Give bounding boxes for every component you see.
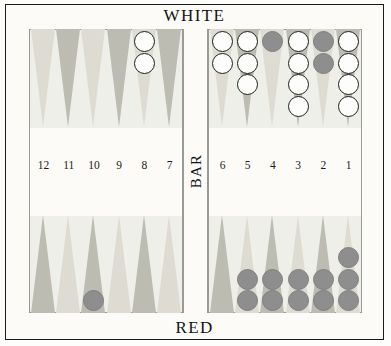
checker-white-point-top-1[interactable]: [338, 31, 359, 52]
point-number-8: 8: [132, 159, 157, 171]
checker-white-point-top-8[interactable]: [134, 31, 155, 52]
point-top-12[interactable]: [31, 29, 56, 127]
point-bot-6[interactable]: [210, 215, 235, 313]
checker-white-point-top-8[interactable]: [134, 53, 155, 74]
right-mid-band: [209, 128, 361, 216]
point-triangle: [31, 29, 55, 127]
checker-red-point-top-2[interactable]: [313, 31, 334, 52]
checker-white-point-top-3[interactable]: [288, 31, 309, 52]
backgammon-board: WHITE RED BAR 121110987654321: [5, 4, 384, 340]
checker-white-point-top-3[interactable]: [288, 74, 309, 95]
checker-red-point-top-2[interactable]: [313, 53, 334, 74]
point-triangle: [210, 215, 234, 313]
point-triangle: [81, 29, 105, 127]
point-bot-12[interactable]: [31, 215, 56, 313]
checker-white-point-top-1[interactable]: [338, 96, 359, 117]
point-number-5: 5: [235, 159, 260, 171]
point-triangle: [157, 215, 181, 313]
point-top-10[interactable]: [81, 29, 106, 127]
checker-red-point-bot-2[interactable]: [313, 290, 334, 311]
point-number-1: 1: [336, 159, 361, 171]
point-bot-8[interactable]: [132, 215, 157, 313]
point-number-2: 2: [311, 159, 336, 171]
point-triangle: [31, 215, 55, 313]
checker-red-point-bot-1[interactable]: [338, 269, 359, 290]
bar-label: BAR: [187, 154, 204, 188]
point-top-9[interactable]: [107, 29, 132, 127]
point-top-7[interactable]: [157, 29, 182, 127]
checker-white-point-top-3[interactable]: [288, 53, 309, 74]
point-bot-9[interactable]: [107, 215, 132, 313]
point-top-11[interactable]: [56, 29, 81, 127]
player-label-red: RED: [6, 318, 383, 338]
checker-white-point-top-1[interactable]: [338, 74, 359, 95]
play-area: BAR 121110987654321: [29, 29, 362, 313]
point-number-4: 4: [260, 159, 285, 171]
checker-red-point-bot-1[interactable]: [338, 247, 359, 268]
point-bot-11[interactable]: [56, 215, 81, 313]
point-number-10: 10: [81, 159, 106, 171]
point-number-9: 9: [107, 159, 132, 171]
point-triangle: [107, 215, 131, 313]
point-triangle: [56, 215, 80, 313]
point-number-12: 12: [31, 159, 56, 171]
checker-red-point-bot-2[interactable]: [313, 269, 334, 290]
left-mid-band: [30, 128, 182, 216]
checker-white-point-top-1[interactable]: [338, 53, 359, 74]
checker-white-point-top-6[interactable]: [212, 31, 233, 52]
bar[interactable]: BAR: [183, 29, 208, 313]
checker-white-point-top-5[interactable]: [237, 53, 258, 74]
point-triangle: [132, 215, 156, 313]
point-triangle: [56, 29, 80, 127]
point-number-7: 7: [157, 159, 182, 171]
checker-red-point-bot-3[interactable]: [288, 290, 309, 311]
point-number-3: 3: [286, 159, 311, 171]
checker-red-point-bot-3[interactable]: [288, 269, 309, 290]
checker-white-point-top-6[interactable]: [212, 53, 233, 74]
player-label-white: WHITE: [6, 6, 383, 26]
checker-white-point-top-3[interactable]: [288, 96, 309, 117]
point-triangle: [157, 29, 181, 127]
point-bot-7[interactable]: [157, 215, 182, 313]
checker-red-point-bot-4[interactable]: [262, 269, 283, 290]
checker-red-point-bot-5[interactable]: [237, 269, 258, 290]
checker-red-point-bot-1[interactable]: [338, 290, 359, 311]
point-triangle: [107, 29, 131, 127]
point-number-11: 11: [56, 159, 81, 171]
point-number-6: 6: [210, 159, 235, 171]
